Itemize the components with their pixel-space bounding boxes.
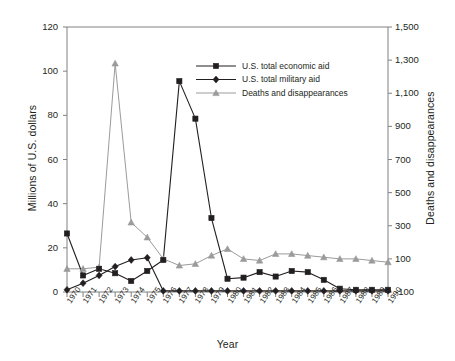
y-tick-left-label: 100: [18, 65, 58, 76]
data-point-marker: [193, 116, 198, 121]
data-point-marker: [240, 256, 246, 262]
y-tick-right-label: 1,300: [395, 54, 439, 65]
y-tick-right-label: 900: [395, 120, 439, 131]
data-point-marker: [241, 275, 246, 280]
y-tick-right-label: 100: [395, 253, 439, 264]
legend-label-0: U.S. total economic aid: [242, 61, 329, 71]
y-tick-left-label: 20: [18, 242, 58, 253]
data-point-marker: [80, 273, 85, 278]
data-point-marker: [96, 272, 102, 279]
data-point-marker: [257, 270, 262, 275]
y-tick-left-label: 60: [18, 154, 58, 165]
y-tick-left-label: 120: [18, 21, 58, 32]
data-point-marker: [208, 252, 214, 258]
x-axis-title: Year: [0, 338, 455, 350]
data-point-marker: [209, 215, 214, 220]
chart-figure: Millions of U.S. dollars Deaths and disa…: [0, 0, 455, 361]
data-point-marker: [129, 278, 134, 283]
y-tick-right-label: 500: [395, 187, 439, 198]
chart-plot-area: [0, 0, 455, 361]
y-tick-left-label: 0: [18, 286, 58, 297]
data-point-marker: [112, 263, 118, 270]
data-point-marker: [80, 280, 86, 287]
data-point-marker: [213, 76, 219, 83]
data-point-marker: [97, 266, 102, 271]
data-point-marker: [224, 246, 230, 252]
data-point-marker: [225, 276, 230, 281]
data-point-marker: [145, 268, 150, 273]
data-point-marker: [128, 257, 134, 264]
data-point-marker: [161, 257, 166, 262]
data-point-marker: [177, 79, 182, 84]
data-point-marker: [144, 254, 150, 261]
data-point-marker: [128, 219, 134, 225]
y-tick-right-label: 700: [395, 154, 439, 165]
data-point-marker: [321, 277, 326, 282]
data-point-marker: [113, 271, 118, 276]
data-point-marker: [64, 231, 69, 236]
data-point-marker: [112, 60, 118, 66]
y-tick-right-label: 1,500: [395, 21, 439, 32]
y-tick-left-label: 40: [18, 198, 58, 209]
y-tick-right-label: 300: [395, 220, 439, 231]
legend-label-1: U.S. total military aid: [242, 74, 320, 84]
y-tick-left-label: 80: [18, 109, 58, 120]
data-point-marker: [192, 261, 198, 267]
legend-label-2: Deaths and disappearances: [242, 88, 348, 98]
data-point-marker: [289, 268, 294, 273]
data-point-marker: [213, 63, 218, 68]
y-tick-right-label: 1,100: [395, 87, 439, 98]
data-point-marker: [305, 270, 310, 275]
data-point-marker: [273, 274, 278, 279]
